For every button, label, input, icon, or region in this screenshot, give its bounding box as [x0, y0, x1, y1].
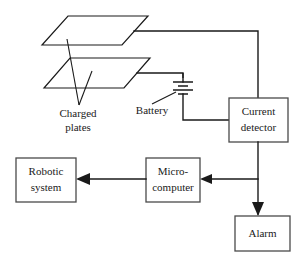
- microcomputer-label-line2: computer: [152, 181, 194, 193]
- lower-charged-plate: [44, 58, 150, 88]
- alarm-label: Alarm: [248, 227, 277, 239]
- circuit-block-diagram: Current detector Micro- computer Robotic…: [0, 0, 302, 264]
- arrowhead-to-microcomputer: [200, 174, 212, 184]
- upper-charged-plate: [42, 16, 148, 45]
- charged-plates-leader-upper: [67, 39, 79, 105]
- current-detector-label-line1: Current: [242, 105, 276, 117]
- robotic-system-label-line2: system: [31, 181, 62, 193]
- arrowhead-to-robotic-system: [76, 173, 90, 185]
- microcomputer-label-line1: Micro-: [158, 165, 189, 177]
- charged-plates-label-line2: plates: [65, 121, 91, 133]
- wire-battery-to-detector: [183, 94, 229, 120]
- charged-plates-label-line1: Charged: [59, 107, 97, 119]
- wire-lower-plate-to-battery: [137, 73, 183, 82]
- arrowhead-to-alarm: [252, 202, 264, 216]
- battery-label: Battery: [136, 104, 169, 116]
- wire-upper-plate-to-detector: [134, 31, 258, 98]
- diagram-canvas: Current detector Micro- computer Robotic…: [0, 0, 302, 264]
- robotic-system-label-line1: Robotic: [29, 165, 64, 177]
- battery-leader-line: [152, 92, 176, 104]
- current-detector-label-line2: detector: [241, 121, 277, 133]
